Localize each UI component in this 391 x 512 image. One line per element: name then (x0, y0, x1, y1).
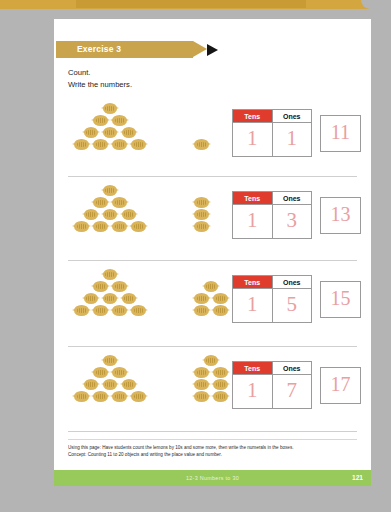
lemon-row (72, 103, 148, 114)
lemon-icon (193, 391, 211, 402)
lemon-icon (212, 305, 230, 316)
ones-value[interactable]: 3 (272, 205, 312, 238)
lemon-icon (212, 379, 230, 390)
lemon-icon (73, 221, 91, 232)
lemon-group-extra (192, 355, 230, 403)
ones-value[interactable]: 5 (272, 289, 312, 322)
lemon-row (72, 139, 148, 150)
table-header-row: TensOnes (233, 276, 311, 288)
lemon-icon (193, 305, 211, 316)
lemon-group-extra (192, 197, 211, 233)
lemon-icon (101, 293, 119, 304)
worksheet-page: Exercise 3 Count. Write the numbers. Ten… (54, 19, 371, 470)
exercise-row: TensOnes1313 (54, 185, 371, 265)
lemon-icon (193, 209, 211, 220)
lemon-row (72, 367, 148, 378)
place-value-table: TensOnes13 (232, 191, 312, 239)
ones-header: Ones (272, 110, 312, 122)
footer-note: Using this page: Have students count the… (68, 444, 353, 458)
lemon-row (72, 209, 148, 220)
lemon-group-extra (192, 281, 230, 317)
lemon-icon (73, 391, 91, 402)
lemon-icon (92, 367, 110, 378)
table-value-row: 11 (233, 122, 311, 156)
answer-box[interactable]: 17 (320, 367, 361, 404)
lemon-icon (130, 305, 148, 316)
lemon-row (192, 355, 230, 366)
place-value-table: TensOnes17 (232, 361, 312, 409)
tens-value[interactable]: 1 (233, 205, 272, 238)
lemon-icon (92, 221, 110, 232)
row-divider (68, 346, 357, 347)
row-divider (68, 260, 357, 261)
footer-note-line-1: Using this page: Have students count the… (68, 444, 353, 451)
row-divider (68, 176, 357, 177)
lemon-icon (120, 293, 138, 304)
lemon-row (72, 115, 148, 126)
answer-box[interactable]: 15 (320, 281, 361, 318)
lemon-icon (120, 209, 138, 220)
lemon-group-ten (72, 185, 148, 233)
footer-note-line-2: Concept: Counting 11 to 20 objects and w… (68, 451, 353, 458)
top-banner-corner (361, 0, 391, 9)
lemon-icon (111, 221, 129, 232)
table-header-row: TensOnes (233, 192, 311, 204)
tens-value[interactable]: 1 (233, 375, 272, 408)
lemon-icon (73, 139, 91, 150)
row-divider (68, 431, 357, 432)
table-value-row: 15 (233, 288, 311, 322)
lemon-icon (120, 127, 138, 138)
exercise-row: TensOnes1515 (54, 269, 371, 349)
place-value-table: TensOnes11 (232, 109, 312, 157)
lemon-icon (92, 281, 110, 292)
table-value-row: 13 (233, 204, 311, 238)
lemon-icon (111, 281, 129, 292)
lemon-row (72, 197, 148, 208)
answer-box[interactable]: 11 (320, 115, 361, 152)
answer-box[interactable]: 13 (320, 197, 361, 234)
lemon-icon (193, 221, 211, 232)
lemon-row (192, 379, 230, 390)
lemon-row (72, 293, 148, 304)
lemon-row (192, 197, 211, 208)
lemon-row (72, 185, 148, 196)
exercise-banner: Exercise 3 (56, 41, 224, 58)
tens-value[interactable]: 1 (233, 123, 272, 156)
lemon-icon (212, 367, 230, 378)
lemon-icon (202, 355, 220, 366)
lemon-icon (111, 197, 129, 208)
lemon-icon (92, 115, 110, 126)
lemon-icon (111, 139, 129, 150)
lemon-icon (193, 367, 211, 378)
lemon-icon (82, 209, 100, 220)
lemon-row (192, 221, 211, 232)
lemon-group-ten (72, 355, 148, 403)
tens-header: Tens (233, 362, 272, 374)
lemon-icon (193, 197, 211, 208)
lemon-icon (193, 379, 211, 390)
exercise-row: TensOnes1111 (54, 103, 371, 183)
lemon-row (192, 293, 230, 304)
ones-value[interactable]: 7 (272, 375, 312, 408)
ones-value[interactable]: 1 (272, 123, 312, 156)
lemon-row (72, 305, 148, 316)
lemon-row (72, 379, 148, 390)
ones-header: Ones (272, 192, 312, 204)
lemon-icon (130, 391, 148, 402)
lemon-row (192, 281, 230, 292)
pencil-tip-icon (207, 44, 218, 56)
exercise-label: Exercise 3 (77, 44, 121, 54)
tens-header: Tens (233, 192, 272, 204)
lemon-icon (101, 355, 119, 366)
lemon-icon (92, 197, 110, 208)
lemon-row (72, 355, 148, 366)
lemon-icon (120, 379, 138, 390)
footer-bar: 12-3 Numbers to 30 121 (54, 470, 371, 486)
lemon-icon (111, 367, 129, 378)
instructions-block: Count. Write the numbers. (68, 67, 132, 90)
table-header-row: TensOnes (233, 362, 311, 374)
tens-value[interactable]: 1 (233, 289, 272, 322)
lemon-icon (212, 293, 230, 304)
top-cutoff-banner (0, 0, 391, 9)
tens-header: Tens (233, 276, 272, 288)
